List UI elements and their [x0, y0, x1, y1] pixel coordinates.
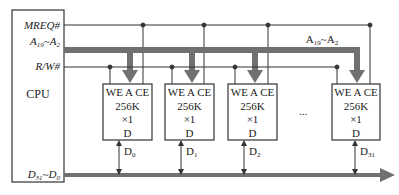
svg-text:D: D — [352, 127, 360, 139]
svg-text:D2: D2 — [249, 145, 261, 159]
svg-text:D: D — [186, 127, 194, 139]
rw-line — [64, 65, 339, 84]
svg-text:D31: D31 — [360, 145, 375, 159]
address-bus-label: A19~A2 — [306, 33, 339, 47]
svg-text:256K: 256K — [115, 100, 140, 112]
cpu-rw-label: R/W# — [35, 60, 61, 72]
memory-chip-1: WE A CE 256K ×1 D D1 — [165, 84, 214, 175]
svg-text:256K: 256K — [344, 100, 369, 112]
svg-text:D: D — [124, 127, 132, 139]
svg-text:×1: ×1 — [184, 113, 196, 125]
svg-text:×1: ×1 — [247, 113, 259, 125]
memory-chip-31: WE A CE 256K ×1 D D31 — [332, 84, 380, 175]
svg-text:256K: 256K — [240, 100, 265, 112]
cpu-data-label: D31~D0 — [27, 168, 61, 182]
svg-text:D1: D1 — [186, 145, 198, 159]
svg-text:D: D — [249, 127, 257, 139]
memory-chip-0: WE A CE 256K ×1 D D0 — [103, 84, 152, 175]
cpu-label: CPU — [26, 87, 50, 101]
svg-text:WE A CE: WE A CE — [106, 86, 150, 98]
svg-text:WE A CE: WE A CE — [168, 86, 212, 98]
svg-text:×1: ×1 — [350, 113, 362, 125]
cpu-addr-label: A19~A2 — [29, 35, 60, 49]
svg-text:WE A CE: WE A CE — [231, 86, 275, 98]
data-bus — [64, 168, 395, 182]
svg-text:×1: ×1 — [122, 113, 134, 125]
ellipsis: ... — [299, 105, 308, 117]
cpu-mreq-label: MREQ# — [23, 19, 61, 31]
svg-text:256K: 256K — [177, 100, 202, 112]
memory-chip-2: WE A CE 256K ×1 D D2 — [228, 84, 277, 175]
memory-expansion-diagram: MREQ# A19~A2 R/W# CPU D31~D0 A19~A2 — [0, 0, 399, 195]
svg-text:WE A CE: WE A CE — [334, 86, 378, 98]
svg-text:D0: D0 — [124, 145, 136, 159]
